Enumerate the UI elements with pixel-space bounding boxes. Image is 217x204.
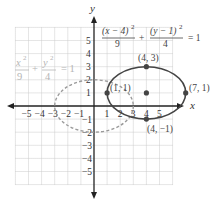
eq2-exponent-2: 2 [50,54,54,62]
eq2-denominator-1: 9 [17,71,22,82]
y-tick-label: −5 [82,167,92,177]
eq1-denominator-2: 4 [163,39,168,49]
x-axis-left-arrow-icon [7,103,14,109]
eq2-plus: + [32,63,38,74]
eq1-numerator-2: (y − 1) [150,26,176,37]
y-axis-label: y [89,2,95,14]
x-tick-label: −5 [22,109,32,119]
eq1-exponent-1: 2 [131,23,135,31]
eq2-exponent-1: 2 [23,54,27,62]
point-top-vertex [144,64,149,69]
y-tick-label: −1 [82,115,92,125]
point-left-vertex [105,90,110,95]
label-right-vertex: (7, 1) [189,83,210,94]
eq1-equals: = 1 [188,33,201,43]
original-ellipse-equation: x 2 9 + y 2 4 = 1 [15,54,75,82]
coordinate-plane: x y −5−4−3−2−112345 54321−1−2−3−4−5 (4, … [0,0,217,204]
y-tick-label: 1 [86,88,91,98]
x-tick-label: −2 [61,109,71,119]
eq1-exponent-2: 2 [179,23,183,31]
shifted-ellipse-equation: (x − 4) 2 9 + (y − 1) 2 4 = 1 [102,23,201,49]
label-left-vertex: (1, 1) [110,83,131,94]
x-tick-label: −4 [35,109,45,119]
y-tick-label: −3 [82,141,92,151]
y-tick-label: 4 [86,49,91,59]
y-tick-label: 3 [86,62,91,72]
y-tick-label: −4 [82,154,92,164]
eq2-denominator-2: 4 [45,71,51,82]
y-tick-label: −2 [82,128,92,138]
label-bottom-vertex: (4, −1) [147,124,173,135]
eq2-numerator-1: x [15,57,21,68]
x-axis-label: x [189,99,195,111]
y-axis-down-arrow-icon [91,192,97,199]
point-right-vertex [183,90,188,95]
eq2-equals: = 1 [61,63,75,74]
x-tick-label: 1 [105,109,110,119]
eq1-numerator-1: (x − 4) [102,26,128,37]
point-center [144,90,149,95]
eq1-plus: + [139,33,144,43]
label-top-vertex: (4, 3) [138,53,159,64]
y-tick-label: 5 [86,36,91,46]
eq2-numerator-2: y [42,57,48,68]
y-axis-up-arrow-icon [91,16,97,23]
eq1-denominator-1: 9 [115,39,120,49]
point-bottom-vertex [144,117,149,122]
ellipse-graph: x y −5−4−3−2−112345 54321−1−2−3−4−5 (4, … [0,0,217,204]
